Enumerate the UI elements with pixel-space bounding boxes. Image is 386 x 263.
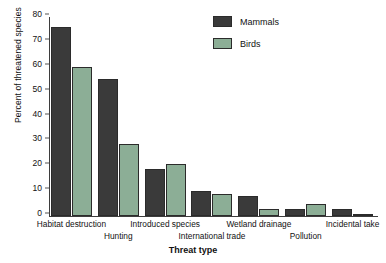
bar-group (284, 17, 331, 216)
x-axis-tick-label: Introduced species (130, 219, 200, 229)
legend-item-mammals: Mammals (213, 16, 279, 27)
x-axis-tick-label: Hunting (104, 231, 133, 241)
bar-group (50, 17, 97, 216)
x-axis-tick-label: Incidental take (326, 219, 380, 229)
bar-mammals (285, 209, 305, 216)
y-axis-tick-mark (45, 14, 49, 15)
legend-swatch-icon (213, 38, 232, 49)
legend-item-label: Birds (240, 39, 261, 49)
y-axis-tick-label: 0 (20, 208, 42, 218)
y-axis-tick-label: 50 (20, 84, 42, 94)
bar-birds (212, 194, 232, 216)
x-axis-tick-label: Pollution (290, 231, 322, 241)
x-axis-line (49, 216, 378, 217)
bar-mammals (145, 169, 165, 216)
bar-birds (259, 209, 279, 216)
bar-group (144, 17, 191, 216)
bar-mammals (98, 79, 118, 216)
bar-mammals (51, 27, 71, 216)
legend-swatch-icon (213, 16, 232, 27)
y-axis-tick-label: 20 (20, 158, 42, 168)
bar-mammals (238, 196, 258, 216)
bar-birds (166, 164, 186, 216)
bar-mammals (332, 209, 352, 216)
bar-birds (306, 204, 326, 216)
bar-birds (72, 67, 92, 216)
bar-group (331, 17, 378, 216)
chart-legend: Mammals Birds (213, 16, 279, 60)
bar-chart: Percent of threatened species 0102030405… (0, 0, 386, 263)
x-axis-tick-label: Wetland drainage (226, 219, 291, 229)
bar-group (97, 17, 144, 216)
x-axis-title: Threat type (0, 245, 386, 255)
legend-item-label: Mammals (240, 17, 279, 27)
bar-mammals (191, 191, 211, 216)
y-axis-ticks: 01020304050607080 (0, 14, 50, 216)
y-axis-tick-label: 40 (20, 109, 42, 119)
x-axis-labels: Habitat destructionHuntingIntroduced spe… (0, 218, 386, 244)
x-axis-tick-label: Habitat destruction (37, 219, 106, 229)
bar-birds (119, 144, 139, 216)
x-axis-tick-label: International trade (179, 231, 246, 241)
y-axis-tick-label: 80 (20, 9, 42, 19)
y-axis-tick-label: 60 (20, 59, 42, 69)
y-axis-tick-label: 70 (20, 34, 42, 44)
y-axis-tick-label: 30 (20, 133, 42, 143)
legend-item-birds: Birds (213, 38, 279, 49)
y-axis-tick-label: 10 (20, 183, 42, 193)
bar-birds (353, 214, 373, 216)
